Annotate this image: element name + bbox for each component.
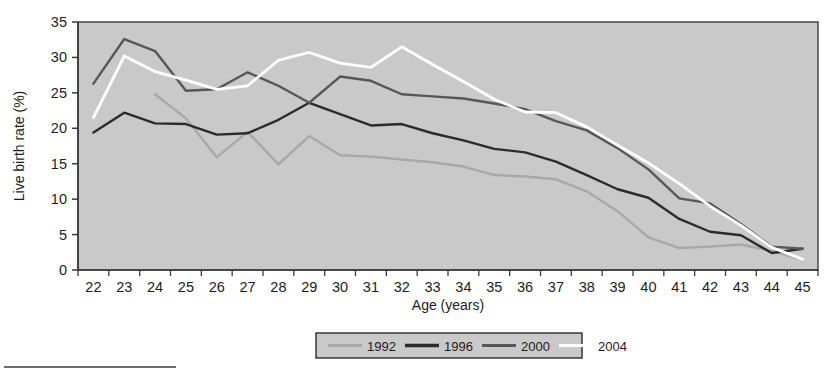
x-tick-label-43: 43 bbox=[733, 279, 749, 295]
live-birth-rate-line-chart: 05101520253035 2223242526272829303132333… bbox=[0, 0, 840, 376]
legend-label-1992: 1992 bbox=[367, 339, 396, 354]
chart-figure: 05101520253035 2223242526272829303132333… bbox=[0, 0, 840, 376]
x-tick-label-41: 41 bbox=[671, 279, 687, 295]
x-tick-label-24: 24 bbox=[147, 279, 163, 295]
x-tick-label-40: 40 bbox=[640, 279, 656, 295]
x-tick-label-23: 23 bbox=[116, 279, 132, 295]
x-tick-label-35: 35 bbox=[486, 279, 502, 295]
x-tick-label-22: 22 bbox=[85, 279, 101, 295]
x-axis-ticks bbox=[78, 270, 818, 276]
x-tick-label-25: 25 bbox=[178, 279, 194, 295]
x-tick-label-38: 38 bbox=[579, 279, 595, 295]
x-axis-tick-labels: 2223242526272829303132333435363738394041… bbox=[85, 279, 810, 295]
y-axis-ticks bbox=[72, 22, 78, 270]
y-tick-label-10: 10 bbox=[51, 191, 67, 207]
x-tick-label-27: 27 bbox=[240, 279, 256, 295]
x-tick-label-34: 34 bbox=[455, 279, 471, 295]
x-tick-label-42: 42 bbox=[702, 279, 718, 295]
y-tick-label-0: 0 bbox=[59, 262, 67, 278]
x-tick-label-26: 26 bbox=[209, 279, 225, 295]
x-tick-label-44: 44 bbox=[764, 279, 780, 295]
x-tick-label-32: 32 bbox=[394, 279, 410, 295]
y-axis-title: Live birth rate (%) bbox=[11, 91, 27, 201]
x-tick-label-30: 30 bbox=[332, 279, 348, 295]
y-tick-label-15: 15 bbox=[51, 156, 67, 172]
y-tick-label-20: 20 bbox=[51, 120, 67, 136]
x-tick-label-29: 29 bbox=[301, 279, 317, 295]
x-tick-label-31: 31 bbox=[363, 279, 379, 295]
x-axis-title: Age (years) bbox=[412, 297, 484, 313]
y-tick-label-30: 30 bbox=[51, 49, 67, 65]
legend-label-1996: 1996 bbox=[444, 339, 473, 354]
y-tick-label-5: 5 bbox=[59, 227, 67, 243]
x-tick-label-39: 39 bbox=[610, 279, 626, 295]
y-tick-label-35: 35 bbox=[51, 14, 67, 30]
legend-label-2000: 2000 bbox=[521, 339, 550, 354]
x-tick-label-33: 33 bbox=[425, 279, 441, 295]
chart-legend: 1992199620002004 bbox=[316, 333, 627, 358]
x-tick-label-36: 36 bbox=[517, 279, 533, 295]
x-tick-label-28: 28 bbox=[270, 279, 286, 295]
plot-area-background bbox=[78, 22, 818, 270]
y-axis-tick-labels: 05101520253035 bbox=[51, 14, 67, 278]
x-tick-label-45: 45 bbox=[795, 279, 811, 295]
legend-label-2004: 2004 bbox=[598, 339, 627, 354]
y-tick-label-25: 25 bbox=[51, 85, 67, 101]
x-tick-label-37: 37 bbox=[548, 279, 564, 295]
